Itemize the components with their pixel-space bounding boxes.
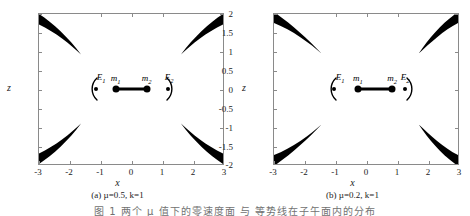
xlabel-b-1: -2 <box>294 168 314 177</box>
ylabel-b-5: -0.5 <box>219 105 233 114</box>
figure-root: m1 m2 E1 E2 2 1.5 1 0.5 0 -0.5 -1 -1.5 -… <box>0 0 470 216</box>
ylabel-b-6: -1 <box>226 124 234 133</box>
e1-dot-b <box>332 87 336 91</box>
e1-dot-a <box>94 87 98 91</box>
xlabel-a-1: -2 <box>59 168 79 177</box>
body-m2-label-a: m2 <box>142 73 152 85</box>
e2-dot-b <box>403 87 407 91</box>
body-m2-dot-b <box>389 86 396 93</box>
xlabel-a-4: 1 <box>152 168 172 177</box>
body-m1-label-a: m1 <box>111 73 121 85</box>
xlabel-b-6: 3 <box>449 168 469 177</box>
yaxis-title-b: z <box>242 82 246 93</box>
e1-label-a: E1 <box>97 72 106 84</box>
e2-label-a: E2 <box>165 72 174 84</box>
figure-caption-cropped: 图 1 两个 µ 值下的零速度面 与 等势线在子午面内的分布 <box>0 205 470 216</box>
panel-b: m1 m2 E1 E2 2 1.5 1 0.5 0 -0.5 -1 -1.5 -… <box>235 0 470 216</box>
ylabel-b-1: 1.5 <box>222 29 233 38</box>
annotation-layer-a: m1 m2 E1 E2 <box>38 13 224 165</box>
xlabel-b-4: 1 <box>387 168 407 177</box>
e1-label-b: E1 <box>336 72 345 84</box>
xaxis-title-a: x <box>0 177 235 188</box>
body-m1-dot-a <box>112 86 119 93</box>
subcaption-a: (a) µ=0.5, k=1 <box>0 190 235 200</box>
xlabel-a-5: 2 <box>183 168 203 177</box>
panel-a: m1 m2 E1 E2 2 1.5 1 0.5 0 -0.5 -1 -1.5 -… <box>0 0 235 216</box>
ylabel-b-8: -2 <box>226 161 234 170</box>
dumbbell-bar-b <box>358 88 392 91</box>
dumbbell-bar-a <box>116 88 147 91</box>
ylabel-b-4: 0 <box>229 86 234 95</box>
e2-dot-a <box>166 87 170 91</box>
ylabel-b-0: 2 <box>229 10 234 19</box>
ylabel-b-2: 1 <box>229 48 234 57</box>
xlabel-a-0: -3 <box>28 168 48 177</box>
body-m2-dot-a <box>143 86 150 93</box>
figure-caption-text: 图 1 两个 µ 值下的零速度面 与 等势线在子午面内的分布 <box>94 207 376 216</box>
xlabel-b-3: 0 <box>356 168 376 177</box>
xlabel-b-0: -3 <box>263 168 283 177</box>
body-m2-label-b: m2 <box>387 73 397 85</box>
xlabel-a-2: -1 <box>90 168 110 177</box>
xlabel-b-5: 2 <box>418 168 438 177</box>
xaxis-title-b: x <box>235 177 470 188</box>
subcaption-b: (b) µ=0.2, k=1 <box>235 190 470 200</box>
ylabel-b-7: -1.5 <box>219 143 233 152</box>
annotation-layer-b: m1 m2 E1 E2 <box>273 13 459 165</box>
yaxis-title-a: z <box>7 82 11 93</box>
xlabel-b-2: -1 <box>325 168 345 177</box>
e2-label-b: E2 <box>401 72 410 84</box>
xlabel-a-3: 0 <box>121 168 141 177</box>
body-m1-dot-b <box>354 86 361 93</box>
body-m1-label-b: m1 <box>353 73 363 85</box>
ylabel-b-3: 0.5 <box>222 67 233 76</box>
